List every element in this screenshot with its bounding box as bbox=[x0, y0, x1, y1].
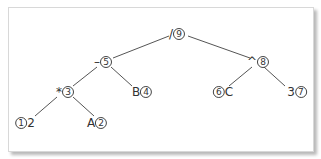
node-multiply: * 3 bbox=[56, 85, 74, 99]
order-badge: 1 bbox=[15, 117, 27, 129]
node-operand-b: B 4 bbox=[132, 85, 152, 99]
order-badge: 5 bbox=[100, 56, 112, 68]
order-badge: 2 bbox=[95, 117, 107, 129]
order-badge: 9 bbox=[173, 28, 185, 40]
operand-3: 3 bbox=[287, 85, 295, 99]
tree-edges bbox=[0, 0, 321, 159]
order-badge: 6 bbox=[213, 86, 225, 98]
edge-mul-a bbox=[73, 97, 94, 116]
edge-mul-2 bbox=[35, 97, 57, 116]
node-divide: / 9 bbox=[169, 27, 185, 41]
edge-div-minus bbox=[113, 36, 169, 58]
order-badge: 4 bbox=[140, 86, 152, 98]
order-badge: 7 bbox=[295, 86, 307, 98]
node-operand-2: 1 2 bbox=[15, 116, 35, 130]
operator-power: ^ bbox=[247, 55, 257, 69]
edge-div-pow bbox=[188, 36, 250, 58]
operand-c: C bbox=[225, 85, 233, 99]
node-operand-a: A 2 bbox=[87, 116, 107, 130]
order-badge: 3 bbox=[62, 86, 74, 98]
edge-pow-3 bbox=[264, 67, 285, 86]
operand-2: 2 bbox=[27, 116, 35, 130]
node-operand-3: 3 7 bbox=[287, 85, 307, 99]
node-power: ^ 8 bbox=[247, 55, 269, 69]
edge-minus-b bbox=[111, 67, 132, 86]
edge-minus-mul bbox=[73, 67, 97, 86]
node-minus: – 5 bbox=[94, 55, 112, 69]
node-operand-c: 6 C bbox=[213, 85, 233, 99]
order-badge: 8 bbox=[257, 56, 269, 68]
operand-a: A bbox=[87, 116, 95, 130]
edge-pow-c bbox=[229, 67, 252, 86]
operand-b: B bbox=[132, 85, 140, 99]
